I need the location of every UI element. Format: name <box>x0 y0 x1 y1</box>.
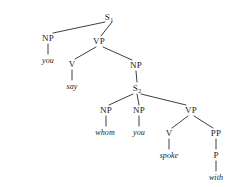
syntax-tree-figure: S1NPVPVNPS2NPNPVPVPPPyousaywhomyouspokew… <box>0 0 242 187</box>
tree-edge-s2-to-np3 <box>109 94 133 105</box>
tree-edge-vp1-to-np2 <box>103 47 132 60</box>
tree-edge-vp1-to-v1 <box>75 47 96 59</box>
tree-node-np4: NP <box>133 105 145 115</box>
tree-node-s1: S1 <box>105 12 113 22</box>
tree-edge-s2-to-vp2 <box>141 94 186 105</box>
tree-node-v2: V <box>166 128 173 138</box>
tree-edges-layer <box>0 0 242 187</box>
tree-node-np3: NP <box>100 105 112 115</box>
tree-leaf-leaf-you-1: you <box>42 56 54 65</box>
tree-leaf-leaf-say: say <box>67 82 78 91</box>
tree-node-subscript: 1 <box>110 17 113 23</box>
tree-node-label-text: V <box>69 59 76 69</box>
tree-node-vp2: VP <box>185 105 197 115</box>
tree-node-vp1: VP <box>93 36 105 46</box>
tree-node-label-text: P <box>213 150 218 160</box>
tree-node-label-text: S <box>133 83 138 93</box>
tree-node-label-text: PP <box>211 128 221 138</box>
tree-node-label-text: NP <box>133 105 145 115</box>
tree-node-s2: S2 <box>133 83 141 93</box>
tree-edge-vp2-to-pp1 <box>194 116 213 128</box>
tree-node-v1: V <box>69 59 76 69</box>
tree-node-label-text: S <box>105 12 110 22</box>
tree-edge-np2-to-s2 <box>136 71 137 82</box>
tree-edge-s2-to-np4 <box>137 94 139 105</box>
tree-node-label-text: NP <box>42 33 54 43</box>
tree-node-pp1: PP <box>211 128 221 138</box>
tree-node-label-text: NP <box>130 60 142 70</box>
tree-node-np1: NP <box>42 33 54 43</box>
tree-leaf-leaf-whom: whom <box>95 128 115 137</box>
tree-node-label-text: NP <box>100 105 112 115</box>
tree-node-np2: NP <box>130 60 142 70</box>
tree-edge-s1-to-vp1 <box>101 22 112 36</box>
tree-node-subscript: 2 <box>138 88 141 94</box>
tree-leaf-leaf-you-2: you <box>133 128 145 137</box>
tree-node-label-text: VP <box>93 36 105 46</box>
tree-edge-vp2-to-v2 <box>172 116 188 128</box>
tree-node-label-text: V <box>166 128 173 138</box>
tree-leaf-leaf-with: with <box>209 173 223 182</box>
tree-node-p1: P <box>213 150 218 160</box>
tree-leaf-leaf-spoke: spoke <box>160 151 179 160</box>
tree-edge-s1-to-np1 <box>53 22 105 33</box>
tree-node-label-text: VP <box>185 105 197 115</box>
